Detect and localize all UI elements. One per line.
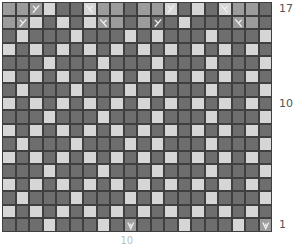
chart-cell [83, 29, 97, 43]
chart-cell [164, 164, 178, 178]
chart-cell [259, 2, 273, 16]
chart-cell [43, 70, 57, 84]
chart-cell [70, 43, 84, 57]
chart-cell [245, 83, 259, 97]
chart-cell [151, 97, 165, 111]
chart-cell [56, 97, 70, 111]
chart-cell [56, 43, 70, 57]
chart-cell [137, 191, 151, 205]
chart-cell [97, 56, 111, 70]
chart-cell [16, 205, 30, 219]
chart-cell [164, 70, 178, 84]
chart-cell [29, 124, 43, 138]
chart-cell [191, 70, 205, 84]
chart-cell [164, 16, 178, 30]
chart-cell [29, 29, 43, 43]
chart-cell [70, 218, 84, 232]
chart-cell [151, 164, 165, 178]
chart-cell [83, 43, 97, 57]
chart-cell [137, 2, 151, 16]
chart-cell [16, 97, 30, 111]
chart-cell [218, 16, 232, 30]
chart-cell [205, 70, 219, 84]
chart-cell [164, 205, 178, 219]
chart-cell [191, 2, 205, 16]
chart-cell [2, 97, 16, 111]
chart-cell [70, 70, 84, 84]
chart-cell [110, 124, 124, 138]
chart-cell [205, 205, 219, 219]
chart-cell [70, 164, 84, 178]
chart-cell [70, 16, 84, 30]
chart-cell [151, 16, 165, 30]
chart-cell [178, 97, 192, 111]
chart-cell [259, 178, 273, 192]
chart-cell [205, 43, 219, 57]
chart-cell [178, 205, 192, 219]
chart-cell [259, 137, 273, 151]
chart-cell [178, 110, 192, 124]
chart-cell [43, 83, 57, 97]
chart-cell [218, 151, 232, 165]
chart-cell [70, 97, 84, 111]
chart-cell [137, 205, 151, 219]
chart-cell [124, 43, 138, 57]
chart-cell [16, 2, 30, 16]
chart-cell [56, 110, 70, 124]
chart-cell [178, 191, 192, 205]
chart-cell [245, 70, 259, 84]
chart-cell [164, 29, 178, 43]
chart-cell [151, 191, 165, 205]
chart-cell [218, 97, 232, 111]
chart-cell [2, 70, 16, 84]
chart-cell [2, 151, 16, 165]
chart-cell [218, 218, 232, 232]
chart-cell [137, 218, 151, 232]
chart-cell [97, 137, 111, 151]
chart-cell [205, 137, 219, 151]
chart-cell [232, 56, 246, 70]
chart-cell [218, 2, 232, 16]
chart-cell [110, 2, 124, 16]
chart-cell [124, 2, 138, 16]
chart-cell [259, 124, 273, 138]
chart-cell [83, 97, 97, 111]
chart-cell [2, 164, 16, 178]
chart-cell [70, 124, 84, 138]
chart-cell [29, 70, 43, 84]
chart-cell [43, 178, 57, 192]
chart-cell [191, 16, 205, 30]
chart-cell [124, 178, 138, 192]
chart-cell [29, 83, 43, 97]
chart-cell [56, 29, 70, 43]
chart-cell [97, 2, 111, 16]
chart-cell [164, 218, 178, 232]
chart-cell [43, 151, 57, 165]
chart-cell [97, 218, 111, 232]
chart-cell [137, 70, 151, 84]
chart-cell [151, 218, 165, 232]
chart-cell [232, 137, 246, 151]
chart-cell [110, 205, 124, 219]
stitch-chart-grid [2, 2, 272, 232]
chart-cell [29, 218, 43, 232]
row-number-label: 17 [279, 3, 293, 15]
chart-cell [83, 205, 97, 219]
chart-cell [97, 205, 111, 219]
chart-cell [245, 124, 259, 138]
chart-cell [110, 151, 124, 165]
chart-cell [137, 137, 151, 151]
chart-cell [218, 137, 232, 151]
chart-cell [164, 110, 178, 124]
chart-cell [218, 178, 232, 192]
chart-cell [110, 16, 124, 30]
chart-cell [124, 110, 138, 124]
chart-cell [232, 218, 246, 232]
chart-cell [151, 110, 165, 124]
chart-cell [29, 205, 43, 219]
chart-cell [232, 191, 246, 205]
chart-cell [137, 178, 151, 192]
chart-cell [29, 56, 43, 70]
chart-cell [56, 137, 70, 151]
chart-cell [245, 110, 259, 124]
